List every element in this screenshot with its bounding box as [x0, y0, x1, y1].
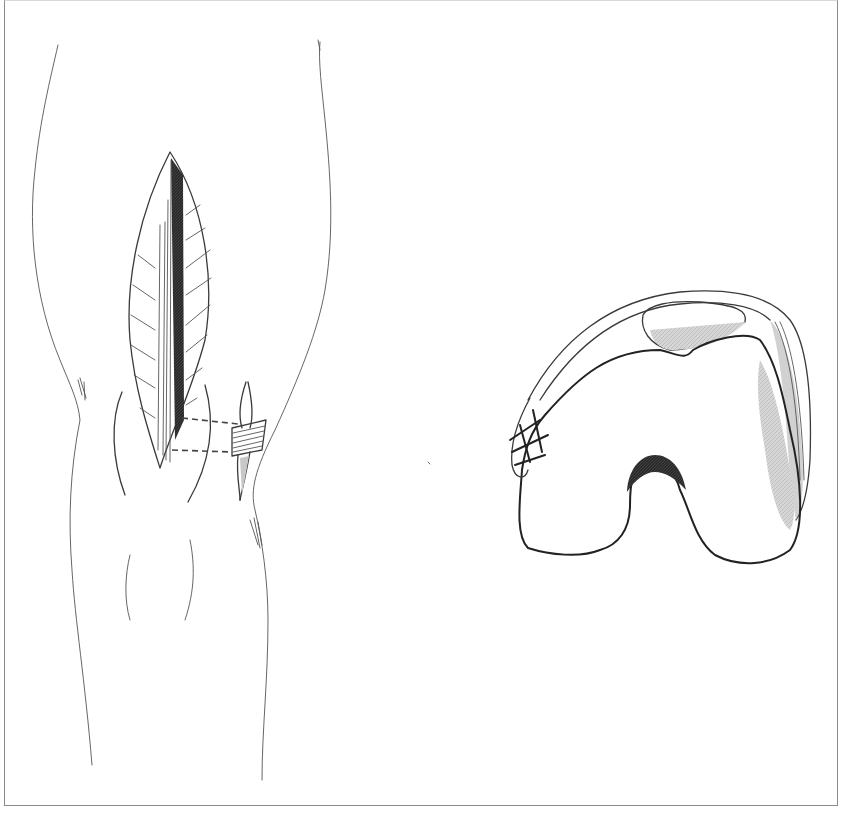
- graft: [172, 382, 266, 500]
- femur-cross-section: [510, 291, 810, 563]
- incision: [129, 152, 211, 468]
- stray-mark: [428, 462, 430, 464]
- illustration-canvas: [0, 0, 845, 813]
